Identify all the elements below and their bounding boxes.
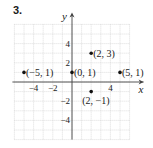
x-tick-label: −2	[48, 83, 58, 93]
x-axis-label: x	[138, 83, 144, 95]
y-tick-label: 2	[66, 58, 71, 68]
point-label: (2, −1)	[82, 95, 109, 107]
point-label: (2, 3)	[93, 48, 115, 60]
y-tick-label: 4	[66, 39, 71, 49]
x-tick-label: 4	[108, 83, 113, 93]
coordinate-plane: xy−4−2442−2−4(−5, 1)(0, 1)(2, 3)(5, 1)(2…	[0, 0, 153, 148]
y-tick-label: −2	[60, 96, 70, 106]
y-axis-label: y	[61, 10, 67, 22]
point-label: (5, 1)	[122, 67, 144, 79]
y-tick-label: −4	[60, 115, 70, 125]
point-label: (−5, 1)	[26, 67, 53, 79]
x-tick-label: −4	[29, 83, 39, 93]
data-point	[89, 90, 93, 94]
point-label: (0, 1)	[74, 67, 96, 79]
